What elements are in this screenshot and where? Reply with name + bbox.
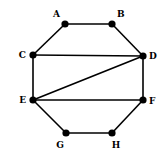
node-d [139, 52, 146, 59]
node-label-e: E [19, 95, 26, 105]
edge-b-d [112, 24, 143, 56]
node-label-d: D [149, 51, 157, 61]
node-b [108, 20, 115, 27]
edge-f-h [112, 100, 143, 133]
edge-d-e [33, 56, 143, 100]
node-f [139, 96, 146, 103]
edge-e-g [33, 100, 66, 133]
node-g [62, 129, 69, 136]
node-label-h: H [112, 140, 121, 150]
node-label-c: C [19, 50, 26, 60]
graph-diagram: ABCDEFGH [0, 0, 166, 150]
node-a [61, 20, 68, 27]
graph-labels: ABCDEFGH [19, 9, 157, 150]
node-label-b: B [117, 9, 125, 19]
edge-a-c [33, 24, 65, 55]
node-label-f: F [149, 96, 156, 106]
edge-c-d [33, 55, 143, 56]
node-e [29, 96, 36, 103]
node-label-g: G [56, 140, 64, 150]
node-label-a: A [52, 9, 61, 19]
graph-edges [33, 24, 143, 133]
node-h [108, 129, 115, 136]
node-c [29, 51, 36, 58]
